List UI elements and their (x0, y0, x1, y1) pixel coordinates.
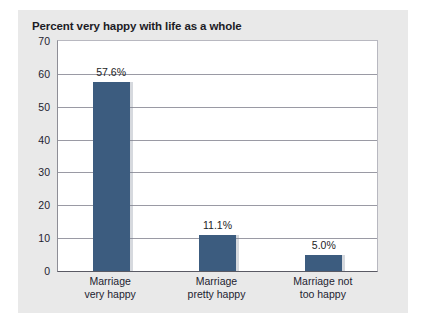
y-axis-tick-label: 60 (38, 68, 50, 80)
bar-value-label: 57.6% (96, 66, 126, 78)
x-axis-category-label: Marriage nottoo happy (293, 275, 352, 300)
bar-group[interactable]: 57.6% (93, 41, 130, 271)
bar-value-label: 11.1% (203, 219, 232, 231)
y-axis-tick-label: 50 (38, 101, 50, 113)
bar[interactable] (93, 82, 130, 271)
x-axis-category-label: Marriagevery happy (84, 275, 135, 300)
bar-group[interactable]: 11.1% (199, 41, 236, 271)
bar-group[interactable]: 5.0% (305, 41, 342, 271)
y-axis-tick-label: 10 (38, 232, 50, 244)
y-axis-tick-label: 30 (38, 166, 50, 178)
bar[interactable] (199, 235, 236, 271)
bars-layer: 57.6%11.1%5.0% (58, 41, 377, 271)
y-axis: 706050403020100 (18, 40, 55, 272)
x-axis-category-label: Marriagepretty happy (188, 275, 246, 300)
chart-card: Percent very happy with life as a whole … (18, 10, 408, 313)
plot-area: 57.6%11.1%5.0% (57, 40, 378, 272)
bar[interactable] (305, 255, 342, 271)
y-axis-tick-label: 0 (44, 265, 50, 277)
y-axis-tick-label: 70 (38, 35, 50, 47)
y-axis-tick-label: 40 (38, 134, 50, 146)
chart-title: Percent very happy with life as a whole (32, 20, 242, 32)
bar-value-label: 5.0% (312, 239, 336, 251)
y-axis-tick-label: 20 (38, 199, 50, 211)
